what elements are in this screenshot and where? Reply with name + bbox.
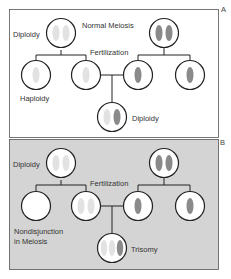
panel-b-fertilization-label: Fertilization: [90, 179, 128, 188]
panel-b-nondisjunction-label-line1: Nondisjunction: [14, 227, 63, 236]
panel-a-gamete-1: [22, 61, 51, 90]
panel-a-gamete-2: [72, 61, 101, 90]
panel-b-gamete-double: [72, 192, 101, 221]
panel-b-parent-label: Diploidy: [13, 160, 40, 169]
panel-b-nondisjunction-label-line2: in Meiosis: [14, 237, 48, 246]
panel-b-offspring-cell: [98, 234, 127, 263]
panel-b-parent-right-cell: [150, 149, 179, 178]
panel-b-corner-label: B: [220, 138, 225, 147]
panel-a-offspring-cell: [98, 103, 127, 132]
panel-a-parent-left-cell: [47, 19, 76, 48]
panel-a-fertilization-label: Fertilization: [90, 48, 128, 57]
panel-a-gamete-3: [124, 61, 153, 90]
panel-a: Diploidy Normal Meiosis Fertilization Ha…: [10, 5, 227, 138]
panel-a-parent-label: Diploidy: [13, 30, 40, 39]
panel-b: Diploidy Fertilization Nondisjunction in…: [10, 138, 226, 270]
panel-a-offspring-label: Diploidy: [132, 114, 159, 123]
panel-b-parent-left-cell: [47, 149, 76, 178]
panel-b-offspring-label: Trisomy: [131, 245, 158, 254]
panel-b-gamete-3: [124, 192, 153, 221]
panel-b-gamete-empty: [22, 192, 51, 221]
panel-a-title: Normal Meiosis: [82, 21, 134, 30]
panel-a-gamete-4: [176, 61, 205, 90]
panel-a-parent-right-cell: [150, 19, 179, 48]
panel-b-gamete-4: [176, 192, 205, 221]
meiosis-diagram: Diploidy Normal Meiosis Fertilization Ha…: [0, 0, 231, 279]
panel-a-gamete-label: Haploidy: [20, 94, 49, 103]
panel-a-corner-label: A: [221, 5, 226, 14]
